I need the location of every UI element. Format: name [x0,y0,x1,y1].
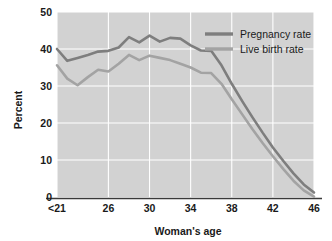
x-tick-label: <21 [48,202,66,214]
y-tick-label: 0 [46,191,52,203]
y-axis-title: Percent [12,90,24,129]
x-tick-label: 34 [185,202,197,214]
x-tick-label: 42 [267,202,279,214]
legend-label: Live birth rate [240,43,304,55]
x-tick-label: 38 [226,202,238,214]
y-tick-label: 30 [40,80,52,92]
chart-container: 01020304050 <21263034384246 Percent Woma… [0,0,332,241]
x-axis-tick-labels: <21263034384246 [48,202,320,214]
x-tick-label: 26 [103,202,115,214]
y-axis-tick-labels: 01020304050 [40,6,52,203]
x-axis-title: Woman's age [154,225,221,237]
legend-label: Pregnancy rate [240,28,311,40]
line-chart: 01020304050 <21263034384246 Percent Woma… [0,0,332,241]
y-tick-label: 50 [40,6,52,18]
y-tick-label: 40 [40,43,52,55]
y-tick-label: 10 [40,154,52,166]
x-tick-label: 46 [308,202,320,214]
x-tick-label: 30 [144,202,156,214]
y-tick-label: 20 [40,117,52,129]
